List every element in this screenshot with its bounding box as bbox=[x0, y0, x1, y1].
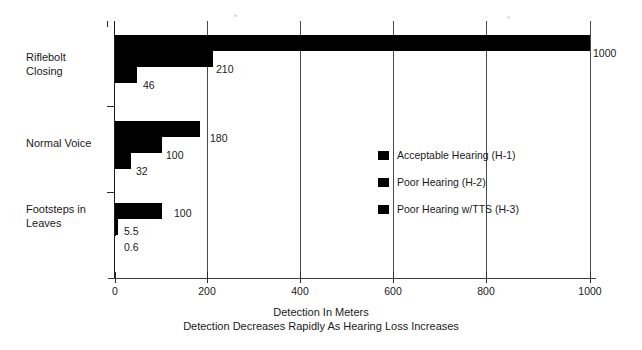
legend-item-poor-hearing[interactable]: Poor Hearing (H-2) bbox=[378, 175, 578, 202]
x-tick-label-200: 200 bbox=[177, 285, 237, 297]
x-tick-label-1000: 1000 bbox=[560, 285, 620, 297]
x-tick-1000 bbox=[590, 272, 591, 283]
category-label-footsteps-in-leaves: Footsteps in Leaves bbox=[26, 203, 112, 230]
category-label-line-2: Leaves bbox=[26, 217, 112, 231]
y-tick-group-2 bbox=[107, 192, 115, 193]
category-label-normal-voice: Normal Voice bbox=[26, 137, 112, 151]
x-tick-label-0: 0 bbox=[85, 285, 145, 297]
bar-normal-voice-poor-hearing bbox=[115, 137, 162, 153]
gridline-1000 bbox=[590, 21, 591, 278]
y-axis-top-cap bbox=[107, 21, 108, 27]
category-label-riflebolt-closing: Riflebolt Closing bbox=[26, 51, 112, 78]
legend-swatch-icon bbox=[378, 151, 389, 160]
x-tick-600 bbox=[393, 272, 394, 283]
bar-value-label-210: 210 bbox=[216, 63, 234, 75]
x-tick-400 bbox=[300, 272, 301, 283]
legend-label: Poor Hearing (H-2) bbox=[397, 175, 486, 189]
scan-artifact bbox=[507, 16, 510, 19]
bar-riflebolt-closing-poor-hearing-tts bbox=[115, 67, 137, 83]
bar-value-label-1000: 1000 bbox=[593, 47, 616, 59]
category-label-line-1: Footsteps in bbox=[26, 203, 112, 217]
bar-value-label-5-5: 5.5 bbox=[124, 225, 139, 237]
legend-swatch-icon bbox=[378, 178, 389, 187]
bar-value-label-100-footsteps: 100 bbox=[174, 207, 192, 219]
bar-footsteps-acceptable-hearing bbox=[115, 203, 162, 219]
bar-chart: 0 200 400 600 800 1000 Riflebolt Closing… bbox=[0, 0, 642, 350]
scan-artifact bbox=[234, 14, 237, 17]
legend-item-acceptable-hearing[interactable]: Acceptable Hearing (H-1) bbox=[378, 148, 578, 175]
bar-normal-voice-acceptable-hearing bbox=[115, 121, 200, 137]
x-tick-label-600: 600 bbox=[363, 285, 423, 297]
bar-footsteps-poor-hearing bbox=[115, 219, 118, 235]
x-tick-label-800: 800 bbox=[456, 285, 516, 297]
bar-value-label-100-normal-voice: 100 bbox=[166, 149, 184, 161]
category-label-line-2: Closing bbox=[26, 65, 112, 79]
bar-value-label-32: 32 bbox=[136, 165, 148, 177]
bar-value-label-46: 46 bbox=[143, 79, 155, 91]
category-label-line-1: Normal Voice bbox=[26, 137, 112, 151]
x-tick-label-400: 400 bbox=[270, 285, 330, 297]
x-axis-title: Detection In Meters bbox=[0, 305, 642, 319]
bar-value-label-0-6: 0.6 bbox=[124, 241, 139, 253]
y-tick-group-1 bbox=[107, 106, 115, 107]
gridline-400 bbox=[300, 21, 301, 278]
bar-riflebolt-closing-acceptable-hearing bbox=[115, 35, 590, 51]
chart-subcaption: Detection Decreases Rapidly As Hearing L… bbox=[0, 319, 642, 333]
legend-label: Poor Hearing w/TTS (H-3) bbox=[397, 202, 519, 216]
legend-item-poor-hearing-tts[interactable]: Poor Hearing w/TTS (H-3) bbox=[378, 202, 578, 229]
legend-label: Acceptable Hearing (H-1) bbox=[397, 148, 515, 162]
bar-value-label-180: 180 bbox=[210, 132, 228, 144]
bar-riflebolt-closing-poor-hearing bbox=[115, 51, 213, 67]
legend-swatch-icon bbox=[378, 205, 389, 214]
x-tick-200 bbox=[207, 272, 208, 283]
category-label-line-1: Riflebolt bbox=[26, 51, 112, 65]
x-tick-800 bbox=[486, 272, 487, 283]
bar-normal-voice-poor-hearing-tts bbox=[115, 153, 131, 169]
bar-footsteps-poor-hearing-tts bbox=[115, 235, 116, 236]
legend: Acceptable Hearing (H-1) Poor Hearing (H… bbox=[378, 148, 578, 229]
x-axis-line bbox=[108, 278, 596, 279]
x-tick-0 bbox=[115, 272, 116, 283]
